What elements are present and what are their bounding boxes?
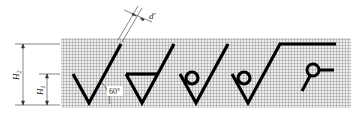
h2-label: H2: [11, 71, 22, 82]
angle-label: 60°: [109, 87, 120, 96]
d-prime-dimension: [118, 6, 152, 42]
diagram-canvas: H2 H1 d' 60°: [0, 0, 356, 121]
d-prime-label: d': [149, 11, 157, 21]
h1-label: H1: [35, 86, 46, 97]
